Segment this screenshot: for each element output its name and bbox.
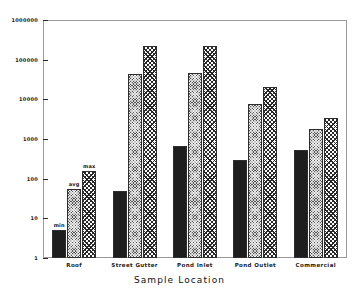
y-axis-tick-mark bbox=[43, 258, 48, 259]
x-axis-tick-label: Pond Inlet bbox=[177, 261, 213, 269]
bar-avg bbox=[248, 104, 262, 258]
bar-group bbox=[113, 21, 157, 258]
bar-max bbox=[203, 46, 217, 258]
x-axis-tick-labels: RoofStreet GutterPond InletPond OutletCo… bbox=[44, 261, 346, 273]
bar-min bbox=[233, 160, 247, 258]
bar-max bbox=[263, 87, 277, 258]
bar-group: minavgmax bbox=[52, 21, 96, 258]
x-axis-tick-label: Pond Outlet bbox=[235, 261, 276, 269]
bar-max: max bbox=[82, 171, 96, 258]
y-axis-tick-label: 10 bbox=[30, 215, 38, 221]
bar-annotation-max: max bbox=[82, 163, 96, 169]
bar-max bbox=[324, 118, 338, 258]
bar-group bbox=[233, 21, 277, 258]
bar-group bbox=[173, 21, 217, 258]
bar-min: min bbox=[52, 230, 66, 258]
bar-min bbox=[113, 191, 127, 258]
y-axis-tick-label: 10000 bbox=[19, 96, 38, 102]
bar-annotation-min: min bbox=[53, 222, 66, 228]
y-axis-tick-label: 1000000 bbox=[12, 17, 38, 23]
bar-min bbox=[173, 146, 187, 258]
bar-avg bbox=[128, 74, 142, 258]
x-axis-tick-label: Street Gutter bbox=[111, 261, 158, 269]
bar-avg bbox=[188, 73, 202, 258]
bar-min bbox=[294, 150, 308, 258]
bar-groups: minavgmax bbox=[44, 21, 346, 258]
bar-max bbox=[143, 46, 157, 258]
y-axis-tick-label: 100000 bbox=[15, 57, 38, 63]
x-axis-title: Sample Location bbox=[0, 275, 359, 285]
bar-annotation-avg: avg bbox=[68, 181, 81, 187]
bar-avg bbox=[309, 129, 323, 259]
bar-avg: avg bbox=[67, 189, 81, 258]
y-axis-tick-label: 1 bbox=[34, 255, 38, 261]
y-axis-tick-label: 1000 bbox=[23, 136, 38, 142]
y-axis-tick-labels: 1101001000100001000001000000 bbox=[0, 20, 38, 258]
bar-group bbox=[294, 21, 338, 258]
x-axis-tick-label: Commercial bbox=[296, 261, 336, 269]
y-axis-tick-label: 100 bbox=[27, 176, 38, 182]
bar-chart: 1101001000100001000001000000 minavgmax R… bbox=[0, 0, 359, 297]
x-axis-tick-label: Roof bbox=[66, 261, 82, 269]
